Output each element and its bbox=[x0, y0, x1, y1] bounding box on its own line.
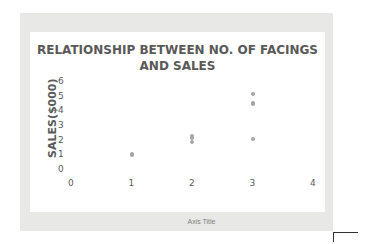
cell-border bbox=[333, 232, 334, 242]
data-point bbox=[251, 92, 255, 96]
data-point bbox=[251, 101, 255, 105]
data-point bbox=[130, 152, 134, 156]
y-tick-label: 5 bbox=[58, 91, 64, 101]
x-axis-title: Axis Title bbox=[12, 218, 379, 225]
title-line-2: AND SALES bbox=[30, 58, 325, 74]
cell-border bbox=[333, 232, 358, 233]
x-tick-label: 3 bbox=[250, 178, 256, 188]
data-point bbox=[251, 137, 255, 141]
y-tick-label: 6 bbox=[58, 76, 64, 86]
data-point bbox=[190, 140, 194, 144]
y-tick-label: 0 bbox=[58, 164, 64, 174]
title-line-1: RELATIONSHIP BETWEEN NO. OF FACINGS bbox=[30, 42, 325, 58]
chart-title: RELATIONSHIP BETWEEN NO. OF FACINGS AND … bbox=[30, 42, 325, 74]
plot-area bbox=[71, 82, 313, 170]
x-tick-label: 0 bbox=[68, 178, 74, 188]
y-tick-label: 1 bbox=[58, 149, 64, 159]
x-tick-label: 2 bbox=[189, 178, 195, 188]
y-tick-label: 3 bbox=[58, 120, 64, 130]
y-tick-label: 2 bbox=[58, 135, 64, 145]
x-tick-label: 1 bbox=[129, 178, 135, 188]
x-tick-label: 4 bbox=[310, 178, 316, 188]
y-tick-label: 4 bbox=[58, 105, 64, 115]
